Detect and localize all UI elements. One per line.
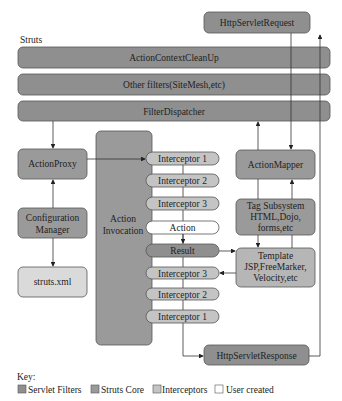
key-legend: Servlet Filters Struts Core Interceptors… — [18, 385, 274, 395]
result-node: Result — [146, 244, 219, 257]
interceptor-out-1: Interceptor 1 — [146, 310, 219, 323]
struts-group-label: Struts — [20, 35, 42, 45]
filter-action-context-cleanup: ActionContextCleanUp — [18, 47, 330, 68]
svg-text:Interceptor 3: Interceptor 3 — [158, 269, 207, 279]
svg-text:Servlet Filters: Servlet Filters — [28, 385, 82, 395]
svg-text:ActionContextCleanUp: ActionContextCleanUp — [129, 53, 219, 63]
interceptor-in-3: Interceptor 3 — [146, 197, 219, 210]
svg-text:HttpServletResponse: HttpServletResponse — [216, 351, 296, 361]
svg-text:HttpServletRequest: HttpServletRequest — [220, 18, 295, 28]
interceptor-in-2: Interceptor 2 — [146, 174, 219, 187]
svg-text:Action: Action — [170, 223, 196, 233]
svg-text:Interceptors: Interceptors — [162, 385, 208, 395]
svg-text:Other filters(SiteMesh,etc): Other filters(SiteMesh,etc) — [123, 80, 225, 91]
filter-other-filters: Other filters(SiteMesh,etc) — [18, 74, 330, 95]
svg-text:struts.xml: struts.xml — [34, 277, 72, 287]
svg-text:Interceptor 1: Interceptor 1 — [158, 312, 207, 322]
action-mapper-node: ActionMapper — [236, 150, 315, 179]
configuration-manager-node: Configuration Manager — [18, 208, 87, 238]
svg-text:Interceptor 2: Interceptor 2 — [158, 176, 207, 186]
svg-text:Tag Subsystem: Tag Subsystem — [247, 201, 305, 211]
legend-swatch-servlet-filters — [18, 385, 26, 393]
svg-text:User created: User created — [226, 385, 274, 395]
svg-text:Velocity,etc: Velocity,etc — [253, 273, 298, 283]
svg-text:ActionMapper: ActionMapper — [248, 160, 304, 170]
svg-text:Interceptor 1: Interceptor 1 — [158, 154, 207, 164]
template-node: Template JSP,FreeMarker, Velocity,etc — [236, 248, 315, 287]
interceptor-out-2: Interceptor 2 — [146, 288, 219, 300]
svg-text:Configuration: Configuration — [26, 213, 80, 223]
legend-swatch-user-created — [215, 385, 223, 393]
interceptor-in-1: Interceptor 1 — [146, 152, 219, 165]
http-servlet-request-node: HttpServletRequest — [204, 12, 310, 33]
interceptor-out-3: Interceptor 3 — [146, 267, 219, 279]
action-invocation-node: Action Invocation — [96, 131, 152, 345]
tag-subsystem-node: Tag Subsystem HTML,Dojo, forms,etc — [236, 199, 315, 235]
legend-swatch-struts-core — [91, 385, 99, 393]
svg-text:Action: Action — [110, 214, 136, 224]
key-title: Key: — [17, 372, 35, 382]
svg-text:Manager: Manager — [36, 225, 71, 235]
action-node: Action — [146, 221, 219, 234]
svg-text:HTML,Dojo,: HTML,Dojo, — [250, 212, 301, 222]
svg-text:ActionProxy: ActionProxy — [28, 159, 77, 169]
action-proxy-node: ActionProxy — [18, 149, 87, 179]
struts-xml-node: struts.xml — [18, 267, 87, 297]
svg-text:Invocation: Invocation — [103, 226, 144, 236]
http-servlet-response-node: HttpServletResponse — [204, 345, 309, 365]
svg-text:Result: Result — [170, 246, 195, 256]
svg-text:Interceptor 2: Interceptor 2 — [158, 290, 207, 300]
svg-text:Template: Template — [258, 251, 293, 261]
svg-text:Interceptor 3: Interceptor 3 — [158, 199, 207, 209]
svg-text:forms,etc: forms,etc — [258, 223, 294, 233]
filter-dispatcher: FilterDispatcher — [18, 101, 330, 121]
legend-swatch-interceptors — [153, 385, 161, 393]
svg-text:JSP,FreeMarker,: JSP,FreeMarker, — [244, 262, 306, 272]
svg-text:Struts Core: Struts Core — [101, 385, 144, 395]
svg-text:FilterDispatcher: FilterDispatcher — [143, 107, 206, 117]
struts-architecture-diagram: HttpServletRequest Struts ActionContextC… — [0, 0, 342, 401]
